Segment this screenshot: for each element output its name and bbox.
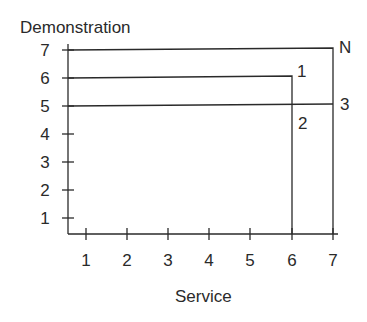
x-tick-label: 2 xyxy=(122,251,131,270)
x-tick-label: 1 xyxy=(81,251,90,270)
diagram-canvas: Demonstration Service 1 2 3 4 5 6 7 1 2 … xyxy=(0,0,367,322)
curve-3 xyxy=(68,104,333,106)
y-tick-label: 1 xyxy=(40,209,49,228)
y-tick-label: 4 xyxy=(40,125,49,144)
y-tick-label: 7 xyxy=(40,41,49,60)
x-tick-label: 7 xyxy=(328,251,337,270)
x-axis-title: Service xyxy=(175,287,232,306)
x-tick-label: 4 xyxy=(204,251,213,270)
curve-label-n: N xyxy=(339,38,351,57)
y-axis-title: Demonstration xyxy=(20,18,131,37)
y-tick-label: 5 xyxy=(40,97,49,116)
curve-label-3: 3 xyxy=(340,95,349,114)
curve-label-2: 2 xyxy=(298,114,307,133)
curve-label-1: 1 xyxy=(297,62,306,81)
x-tick-label: 5 xyxy=(245,251,254,270)
y-tick-label: 6 xyxy=(40,69,49,88)
y-tick-label: 2 xyxy=(40,181,49,200)
y-tick-label: 3 xyxy=(40,153,49,172)
x-tick-label: 6 xyxy=(287,251,296,270)
x-tick-label: 3 xyxy=(163,251,172,270)
curve-1 xyxy=(68,76,292,234)
curve-n xyxy=(68,48,333,234)
